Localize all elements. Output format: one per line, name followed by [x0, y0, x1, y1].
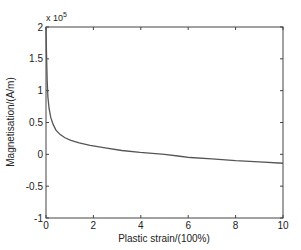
plot-area — [46, 27, 283, 218]
y-axis-label: Magnetisation/(A/m) — [5, 77, 16, 166]
y-tick-label: 2 — [37, 22, 43, 33]
y-axis-ticks: -1-0.500.511.52 — [26, 22, 283, 224]
y-multiplier-label: x 105 — [46, 11, 67, 23]
x-tick-label: 10 — [277, 220, 289, 231]
y-tick-label: -1 — [34, 213, 43, 224]
magnetisation-chart: 0246810 -1-0.500.511.52 Plastic strain/(… — [0, 0, 301, 250]
y-tick-label: 0.5 — [29, 117, 43, 128]
x-tick-label: 8 — [233, 220, 239, 231]
data-series-line — [46, 27, 283, 163]
y-tick-label: 0 — [37, 149, 43, 160]
x-axis-ticks: 0246810 — [43, 27, 289, 231]
y-tick-label: 1.5 — [29, 53, 43, 64]
x-axis-label: Plastic strain/(100%) — [118, 233, 210, 244]
y-tick-label: -0.5 — [26, 181, 44, 192]
axes-box — [46, 27, 283, 218]
x-tick-label: 2 — [91, 220, 97, 231]
x-tick-label: 6 — [185, 220, 191, 231]
chart-svg: 0246810 -1-0.500.511.52 Plastic strain/(… — [0, 0, 301, 250]
x-tick-label: 0 — [43, 220, 49, 231]
y-tick-label: 1 — [37, 85, 43, 96]
x-tick-label: 4 — [138, 220, 144, 231]
